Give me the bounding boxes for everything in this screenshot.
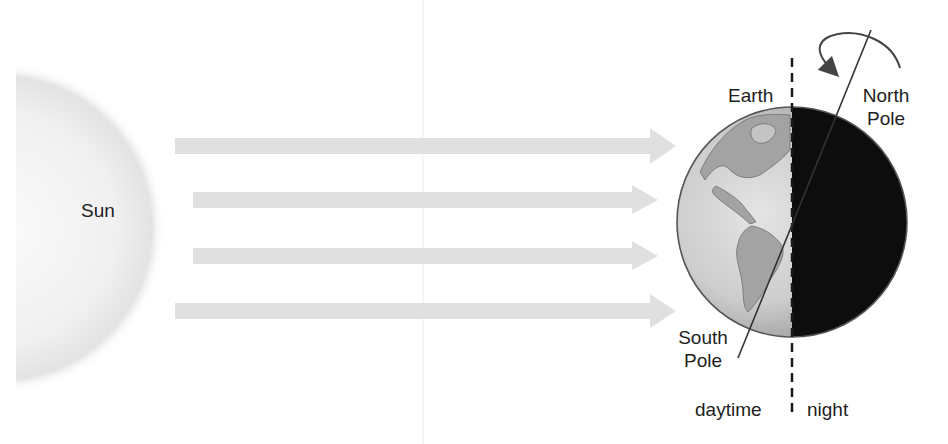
south-pole-line-1: South bbox=[671, 326, 735, 349]
ray-arrow-1 bbox=[175, 128, 676, 164]
diagram-canvas bbox=[0, 0, 948, 444]
north-pole-line-1: North bbox=[856, 84, 916, 107]
rotation-arrow-icon bbox=[820, 33, 900, 70]
ray-arrow-4 bbox=[175, 294, 676, 328]
sun-earth-diagram: Sun Earth North Pole South Pole daytime … bbox=[0, 0, 948, 444]
north-pole-line-2: Pole bbox=[856, 107, 916, 130]
daytime-label: daytime bbox=[695, 398, 762, 421]
ray-arrow-2 bbox=[193, 185, 658, 214]
sun-rays bbox=[175, 128, 676, 328]
north-pole-label: North Pole bbox=[856, 84, 916, 130]
south-pole-line-2: Pole bbox=[671, 349, 735, 372]
ray-arrow-3 bbox=[193, 241, 658, 270]
sun-label: Sun bbox=[81, 199, 115, 222]
south-pole-label: South Pole bbox=[671, 326, 735, 372]
earth-label: Earth bbox=[728, 84, 773, 107]
sun bbox=[0, 23, 165, 433]
night-label: night bbox=[807, 398, 848, 421]
